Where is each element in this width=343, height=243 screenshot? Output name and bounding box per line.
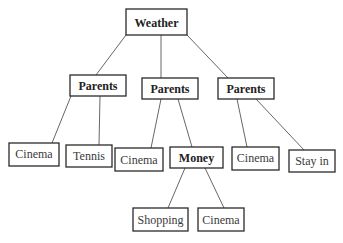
node-label: Parents	[150, 82, 189, 96]
node-cinema-1: Cinema	[9, 143, 59, 166]
node-label: Shopping	[137, 213, 183, 227]
node-weather: Weather	[126, 9, 187, 35]
decision-tree-diagram: Weather Parents Parents Parents Cinema T…	[0, 0, 343, 243]
node-cinema-3: Cinema	[232, 147, 279, 170]
edge-parents-mid-cinema	[151, 99, 161, 148]
node-label: Cinema	[15, 147, 53, 161]
node-money: Money	[170, 147, 223, 168]
node-tennis: Tennis	[66, 145, 112, 167]
node-label: Weather	[135, 16, 180, 30]
node-label: Cinema	[120, 153, 158, 167]
node-parents-right: Parents	[218, 78, 274, 99]
node-label: Stay in	[295, 154, 329, 168]
node-stay-in: Stay in	[289, 150, 335, 172]
edge-parents-left-cinema	[52, 96, 71, 143]
node-label: Parents	[226, 82, 265, 96]
edge-parents-right-cinema	[237, 99, 247, 147]
edge-parents-left-tennis	[99, 96, 100, 145]
edge-money-shopping	[168, 168, 185, 208]
node-label: Cinema	[237, 151, 275, 165]
node-cinema-4: Cinema	[198, 208, 244, 231]
node-parents-mid: Parents	[142, 78, 198, 99]
edge-weather-parents-left	[96, 35, 126, 75]
node-label: Cinema	[202, 213, 240, 227]
node-cinema-2: Cinema	[115, 148, 163, 171]
node-label: Parents	[78, 79, 117, 93]
edges	[52, 35, 304, 208]
node-label: Tennis	[73, 149, 105, 163]
edge-parents-mid-money	[178, 99, 192, 147]
edge-weather-parents-right	[187, 35, 228, 78]
node-label: Money	[179, 151, 214, 165]
edge-parents-right-stay-in	[256, 99, 304, 150]
node-shopping: Shopping	[133, 208, 188, 231]
edge-money-cinema	[205, 168, 224, 208]
node-parents-left: Parents	[70, 75, 126, 96]
